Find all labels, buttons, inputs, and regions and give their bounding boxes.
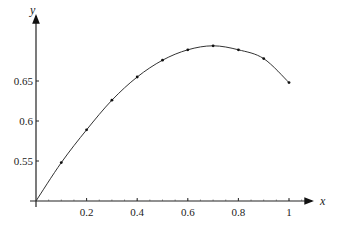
data-points xyxy=(60,44,291,164)
y-tick-label: 0.55 xyxy=(14,155,34,167)
y-tick-label: 0.65 xyxy=(14,75,34,87)
line-chart: 0.20.40.60.81 0.550.60.65 x y xyxy=(0,0,340,227)
y-axis-label: y xyxy=(29,3,36,17)
x-tick-label: 0.4 xyxy=(130,206,144,218)
data-point xyxy=(111,99,114,102)
data-point xyxy=(288,81,291,84)
data-point xyxy=(262,57,265,60)
x-tick-label: 0.2 xyxy=(80,206,94,218)
x-tick-label: 1 xyxy=(286,206,292,218)
y-ticks: 0.550.60.65 xyxy=(14,75,39,167)
data-point xyxy=(186,48,189,51)
data-point xyxy=(136,76,139,79)
data-point xyxy=(85,128,88,131)
data-point xyxy=(237,48,240,51)
data-point xyxy=(212,44,215,47)
x-tick-label: 0.6 xyxy=(181,206,195,218)
x-tick-label: 0.8 xyxy=(232,206,246,218)
x-ticks: 0.20.40.60.81 xyxy=(49,198,302,218)
data-curve xyxy=(36,46,289,201)
x-axis-label: x xyxy=(319,194,326,208)
data-point xyxy=(161,59,164,62)
data-point xyxy=(60,161,63,164)
y-tick-label: 0.6 xyxy=(19,115,33,127)
